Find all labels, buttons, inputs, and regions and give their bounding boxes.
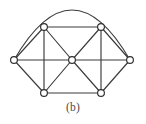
graph-edge: [44, 27, 72, 60]
graph-vertex: [69, 57, 76, 64]
graph-vertex: [41, 24, 48, 31]
graph-vertex: [127, 57, 134, 64]
edges-layer: [14, 10, 130, 93]
graph-vertex: [98, 90, 105, 97]
graph-edge: [101, 60, 130, 93]
graph-edge: [14, 10, 130, 60]
graph-edge: [14, 27, 44, 60]
graph-vertex: [98, 24, 105, 31]
graph-edge: [101, 27, 130, 60]
graph-edge: [72, 60, 101, 93]
graph-edge: [44, 60, 72, 93]
graph-vertex: [41, 90, 48, 97]
graph-edge: [14, 60, 44, 93]
graph-edge: [72, 27, 101, 60]
graph-vertex: [11, 57, 18, 64]
figure-caption: (b): [0, 100, 146, 114]
figure-container: (b): [0, 0, 146, 124]
